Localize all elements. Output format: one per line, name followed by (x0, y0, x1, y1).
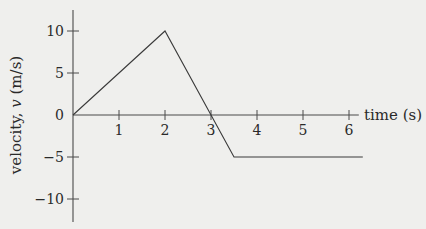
y-axis-label-unit: (m/s) (7, 56, 25, 99)
x-tick-label: 1 (115, 122, 124, 138)
x-tick-label: 2 (161, 122, 170, 138)
x-tick-label: 5 (299, 122, 308, 138)
axes (73, 10, 359, 222)
y-tick-label: 10 (46, 23, 64, 39)
y-tick-label: −10 (34, 191, 64, 207)
y-axis-label: velocity, v (m/s) (7, 56, 25, 175)
x-tick-label: 3 (207, 122, 216, 138)
y-tick-label: −5 (43, 149, 64, 165)
velocity-line (73, 31, 363, 157)
x-axis-label: time (s) (364, 106, 422, 124)
velocity-time-chart: 1234561050−5−10 time (s) velocity, v (m/… (0, 0, 426, 229)
y-axis-label-prefix: velocity, (7, 108, 25, 175)
x-tick-label: 4 (253, 122, 262, 138)
x-tick-label: 6 (345, 122, 354, 138)
y-tick-label: 0 (55, 107, 64, 123)
y-tick-label: 5 (55, 65, 64, 81)
